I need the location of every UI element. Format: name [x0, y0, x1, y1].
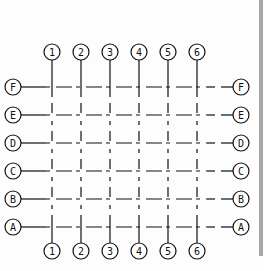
bubble-label: 2 [78, 47, 84, 58]
row-bubble-left-C: C [5, 163, 21, 179]
bubble-label: A [238, 222, 244, 233]
row-bubble-left-A: A [5, 219, 21, 235]
bubble-label: 3 [107, 246, 113, 257]
row-bubble-right-B: B [233, 191, 249, 207]
row-bubble-left-E: E [5, 107, 21, 123]
drawing-canvas[interactable]: 112233445566FFEEDDCCBBAA [0, 0, 264, 271]
row-bubble-left-F: F [5, 79, 21, 95]
row-bubble-right-A: A [233, 219, 249, 235]
bubble-label: F [10, 82, 16, 93]
bubble-label: B [238, 194, 244, 205]
bubble-label: 1 [49, 246, 55, 257]
column-bubble-top-4: 4 [131, 44, 147, 60]
row-bubble-left-B: B [5, 191, 21, 207]
bubble-label: 4 [136, 47, 142, 58]
row-bubble-left-D: D [5, 135, 21, 151]
bubble-label: A [10, 222, 16, 233]
bubble-label: C [10, 166, 16, 177]
column-bubble-bottom-4: 4 [131, 243, 147, 259]
column-bubble-top-3: 3 [102, 44, 118, 60]
bubble-label: 5 [165, 47, 171, 58]
row-bubble-right-E: E [233, 107, 249, 123]
vertical-scrollbar[interactable] [259, 0, 263, 256]
column-bubble-top-5: 5 [160, 44, 176, 60]
bubble-label: 1 [49, 47, 55, 58]
bubble-label: D [10, 138, 16, 149]
bubble-label: 5 [165, 246, 171, 257]
bubble-label: 4 [136, 246, 142, 257]
axis-grid-diagram: 112233445566FFEEDDCCBBAA [0, 0, 264, 271]
bubble-label: F [238, 82, 244, 93]
column-bubble-top-2: 2 [73, 44, 89, 60]
bubble-label: E [10, 110, 16, 121]
bubble-label: 2 [78, 246, 84, 257]
bubble-label: C [238, 166, 244, 177]
bubble-label: 3 [107, 47, 113, 58]
bubble-label: B [10, 194, 16, 205]
column-bubble-bottom-2: 2 [73, 243, 89, 259]
bubble-label: E [238, 110, 244, 121]
row-bubble-right-F: F [233, 79, 249, 95]
row-bubble-right-D: D [233, 135, 249, 151]
column-bubble-bottom-3: 3 [102, 243, 118, 259]
column-bubble-bottom-6: 6 [189, 243, 205, 259]
bubble-label: 6 [194, 47, 200, 58]
bubble-label: D [238, 138, 244, 149]
column-bubble-top-6: 6 [189, 44, 205, 60]
column-bubble-bottom-5: 5 [160, 243, 176, 259]
bubble-label: 6 [194, 246, 200, 257]
column-bubble-bottom-1: 1 [44, 243, 60, 259]
row-bubble-right-C: C [233, 163, 249, 179]
column-bubble-top-1: 1 [44, 44, 60, 60]
